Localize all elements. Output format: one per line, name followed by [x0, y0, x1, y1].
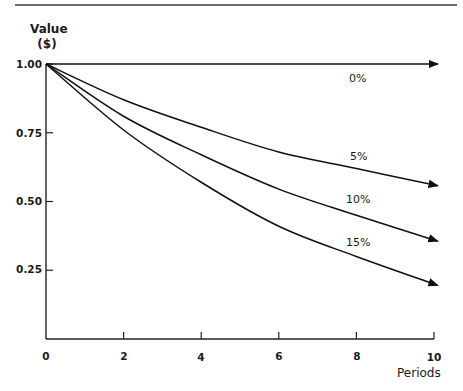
x-tick-label: 0	[34, 350, 58, 362]
y-tick-label: 0.75	[12, 127, 42, 139]
x-axis-title: Periods	[397, 367, 441, 379]
series-label-5pct: 5%	[350, 151, 367, 163]
y-axis-title-line2: ($)	[30, 37, 64, 52]
curves	[46, 64, 438, 285]
y-tick-label: 1.00	[12, 58, 42, 70]
y-tick-label: 0.50	[12, 195, 42, 207]
curve-10pct	[46, 64, 438, 241]
x-tick-label: 2	[112, 350, 136, 362]
y-axis-title-line1: Value	[30, 22, 64, 37]
x-tick-label: 10	[422, 351, 446, 363]
curve-5pct	[46, 64, 438, 186]
y-axis-title: Value ($)	[30, 22, 64, 52]
series-label-10pct: 10%	[346, 194, 370, 206]
x-tick-label: 4	[189, 351, 213, 363]
y-tick-label: 0.25	[12, 263, 42, 275]
curve-15pct	[46, 64, 438, 285]
x-tick-label: 6	[267, 350, 291, 362]
axes	[46, 64, 434, 339]
series-label-0pct: 0%	[349, 73, 366, 85]
plot-area	[0, 0, 463, 391]
x-tick-label: 8	[345, 350, 369, 362]
series-label-15pct: 15%	[346, 237, 370, 249]
